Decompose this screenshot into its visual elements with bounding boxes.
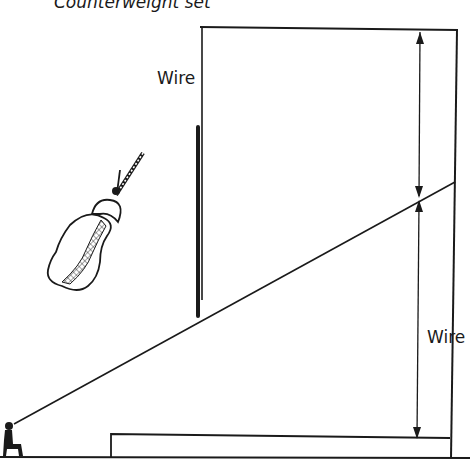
stage-platform	[111, 434, 450, 457]
wire-label-right: Wire	[427, 329, 465, 346]
dimension-arrow-lower	[413, 200, 423, 439]
grid-line	[200, 27, 458, 30]
dimension-arrow-upper	[415, 32, 424, 198]
diagram-svg	[0, 0, 470, 473]
seated-spectator-icon	[3, 422, 23, 456]
diagram-title: Counterweight set	[54, 0, 211, 11]
floor-line	[0, 457, 470, 458]
wire-label-top: Wire	[157, 70, 195, 87]
sandbag-counterweight-icon	[48, 153, 143, 290]
diagram-canvas: Counterweight set Wire Wire	[0, 0, 470, 473]
fly-loft-wall	[451, 30, 457, 458]
